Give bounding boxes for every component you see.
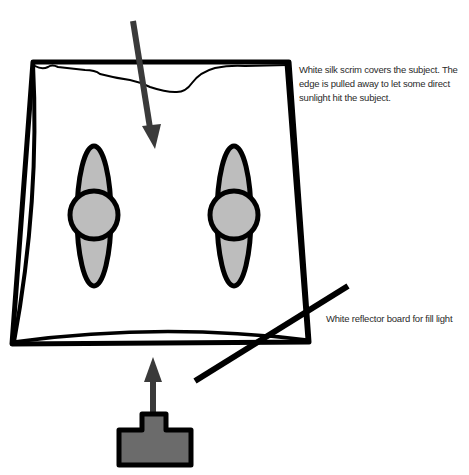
subject-left-icon <box>70 146 118 286</box>
subject-right-icon <box>210 146 258 286</box>
scrim-caption: White silk scrim covers the subject. The… <box>299 63 469 105</box>
camera-icon <box>119 414 191 465</box>
reflector-caption: White reflector board for fill light <box>326 312 469 326</box>
camera-arrow-icon <box>144 357 162 414</box>
silk-scrim <box>12 62 309 344</box>
